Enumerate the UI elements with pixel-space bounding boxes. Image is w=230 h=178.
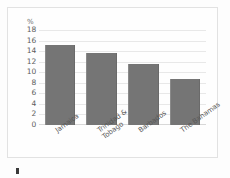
y-tick-label: 16 bbox=[20, 37, 36, 45]
chart-frame: % 18 16 14 12 10 8 6 4 2 0 bbox=[7, 7, 218, 158]
bar-jamaica[interactable] bbox=[45, 45, 76, 125]
y-tick-label: 10 bbox=[20, 68, 36, 76]
y-axis-tick-labels: 18 16 14 12 10 8 6 4 2 0 bbox=[18, 30, 36, 125]
y-tick-label: 4 bbox=[20, 100, 36, 108]
y-tick-label: 14 bbox=[20, 47, 36, 55]
bar-trinidad-tobago[interactable] bbox=[86, 53, 117, 125]
gridline bbox=[39, 41, 206, 42]
y-tick-label: 12 bbox=[20, 58, 36, 66]
y-tick-label: 2 bbox=[20, 110, 36, 118]
y-tick-label: 0 bbox=[20, 121, 36, 129]
x-axis-category-labels: Jamaica Trinidad & Tobago Barbados The B… bbox=[39, 126, 206, 170]
scan-artifact-mark bbox=[16, 168, 19, 174]
gridline bbox=[39, 30, 206, 31]
y-tick-label: 8 bbox=[20, 79, 36, 87]
y-tick-label: 18 bbox=[20, 26, 36, 34]
y-tick-label: 6 bbox=[20, 89, 36, 97]
scanned-page: % 18 16 14 12 10 8 6 4 2 0 bbox=[0, 0, 230, 178]
